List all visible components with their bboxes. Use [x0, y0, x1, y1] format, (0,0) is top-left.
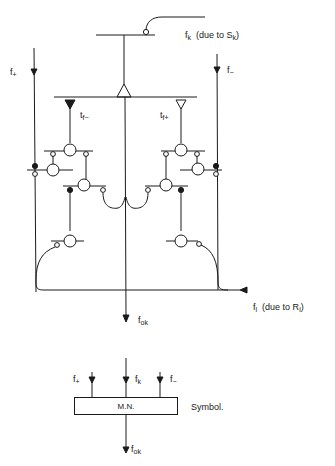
fl-line — [36, 280, 240, 290]
fminus-label: f− — [227, 66, 234, 75]
left-arc — [103, 193, 125, 208]
tfplus-label: tf+ — [160, 111, 169, 120]
fl-label: fl (due to Rl) — [253, 303, 304, 312]
mn-label: M.N. — [118, 402, 135, 411]
fok-label: fok — [138, 316, 148, 325]
open-triangle-small-icon — [176, 100, 186, 109]
symbol-caption: Symbol. — [191, 403, 224, 412]
symbol-fplus-label: f+ — [73, 375, 80, 384]
right-arc — [126, 193, 148, 208]
symbol-fk-label: fk — [135, 375, 141, 384]
fminus-arrow-icon — [214, 67, 220, 73]
tfminus-label: tf− — [80, 111, 89, 120]
fl-arrow-icon — [240, 287, 247, 293]
fok-arrow-icon — [123, 315, 129, 322]
symbol-fminus-label: f− — [170, 375, 177, 384]
central-lower-line — [125, 97, 126, 316]
mn-box: M.N. — [74, 397, 178, 415]
open-triangle-icon — [117, 84, 131, 97]
synapse-open-icon — [143, 29, 148, 34]
fplus-arrow-icon — [31, 69, 37, 75]
fk-label: fk (due to Sk) — [185, 31, 239, 40]
fplus-label: f+ — [10, 68, 17, 77]
symbol-fok-label: fok — [131, 445, 141, 454]
